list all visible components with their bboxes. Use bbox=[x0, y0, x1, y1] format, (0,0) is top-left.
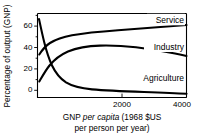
series-label-service-group: Service bbox=[147, 14, 185, 25]
x-axis-title-line2: per person per year) bbox=[74, 123, 149, 133]
y-axis-title-text: Percentage of output (GNP) bbox=[2, 4, 12, 107]
series-label-service: Service bbox=[156, 15, 185, 25]
series-label-industry: Industry bbox=[154, 42, 185, 52]
y-axis-title: Percentage of output (GNP) bbox=[2, 4, 12, 107]
chart-svg: 0 20 40 60 2000 4000 Service bbox=[0, 0, 199, 137]
series-label-agriculture: Agriculture bbox=[143, 73, 184, 83]
x-tick-labels: 2000 4000 bbox=[113, 100, 191, 109]
y-tick-labels: 0 20 40 60 bbox=[24, 21, 33, 94]
x-axis-title: GNP per capita (1968 $US per person per … bbox=[63, 112, 162, 133]
series-label-agriculture-group: Agriculture bbox=[131, 72, 185, 84]
y-tick-label-20: 20 bbox=[24, 64, 33, 73]
x-axis-title-italic: per capita bbox=[82, 112, 120, 122]
y-tick-label-60: 60 bbox=[24, 21, 33, 30]
x-axis-title-post: (1968 $US bbox=[119, 112, 161, 122]
svg-text:GNP per capita (1968 $US: GNP per capita (1968 $US bbox=[63, 112, 162, 122]
y-tick-label-0: 0 bbox=[28, 85, 33, 94]
chart-figure: 0 20 40 60 2000 4000 Service bbox=[0, 0, 199, 137]
y-tick-label-40: 40 bbox=[24, 43, 33, 52]
x-axis-title-pre: GNP bbox=[63, 112, 83, 122]
series-label-industry-group: Industry bbox=[144, 41, 185, 53]
x-tick-label-4000: 4000 bbox=[173, 100, 191, 109]
x-tick-label-2000: 2000 bbox=[113, 100, 131, 109]
